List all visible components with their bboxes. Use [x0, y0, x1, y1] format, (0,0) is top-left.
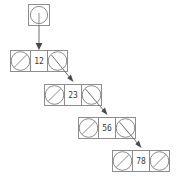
list-node[interactable]: 12	[11, 51, 68, 72]
node-value-label: 12	[34, 57, 44, 66]
link-head-to-node-12	[36, 25, 43, 50]
arrow-head-icon	[36, 43, 43, 50]
node-value-label: 78	[136, 157, 146, 166]
list-node[interactable]: 78	[113, 151, 170, 172]
head-pointer-node	[29, 5, 50, 26]
node-value-label: 56	[102, 124, 112, 133]
node-value-label: 23	[68, 91, 78, 100]
list-node[interactable]: 23	[45, 85, 102, 106]
node-next-pointer-circle-icon	[48, 52, 67, 71]
node-next-pointer-circle-icon	[116, 119, 135, 138]
linked-list-diagram: 12 23	[0, 0, 182, 180]
list-node[interactable]: 56	[79, 118, 136, 139]
node-next-pointer-circle-icon	[82, 86, 101, 105]
diagram-canvas: 12 23	[0, 0, 182, 180]
